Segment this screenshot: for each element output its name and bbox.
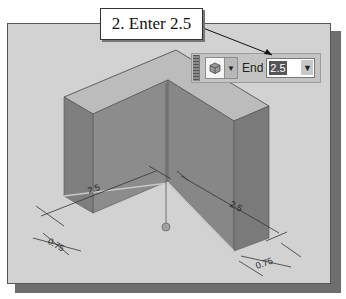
callout-leader (0, 0, 346, 299)
callout-text: 2. Enter 2.5 (112, 14, 191, 34)
instruction-callout: 2. Enter 2.5 (100, 8, 203, 40)
